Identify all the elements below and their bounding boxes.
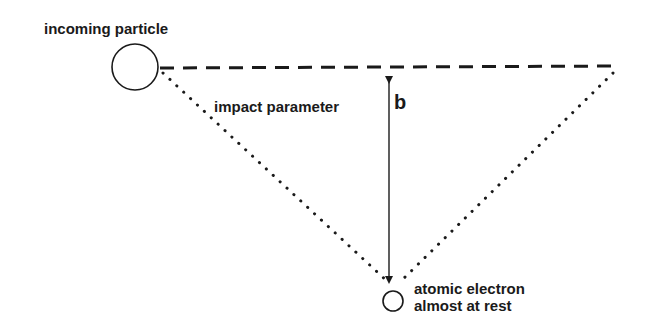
atomic-electron-label: atomic electron almost at rest [414,280,525,314]
trajectory-dashed-line [160,66,620,68]
impact-parameter-label: impact parameter [214,98,339,115]
incoming-particle-label: incoming particle [44,20,168,37]
diagram-canvas: incoming particle impact parameter b ato… [0,0,649,335]
diagram-graphics [0,0,649,335]
b-symbol-label: b [394,91,406,114]
electron-label-line1: atomic electron [414,280,525,297]
dotted-line-right [400,73,613,282]
incoming-particle-circle [112,44,158,90]
atomic-electron-circle [383,291,403,311]
electron-label-line2: almost at rest [414,297,525,314]
